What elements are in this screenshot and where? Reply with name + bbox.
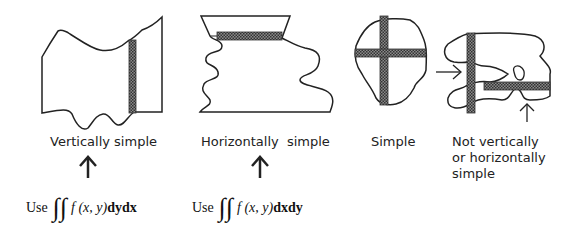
- vertical-strip: [380, 16, 388, 105]
- double-integral-icon: ∫∫: [219, 195, 233, 221]
- formula-dxdy: Use ∫∫ f (x, y) dxdy: [192, 195, 303, 221]
- region-outline: [200, 16, 333, 112]
- label-horizontally-simple: Horizontally simple: [201, 134, 330, 150]
- label-vertically-simple: Vertically simple: [50, 134, 157, 150]
- right-arrow-icon: [436, 65, 461, 79]
- up-arrow-icon: [252, 157, 268, 178]
- horizontally-simple-region: [200, 16, 333, 112]
- region-outline: [355, 19, 426, 105]
- horizontal-strip: [217, 32, 282, 40]
- label-simple: Simple: [371, 134, 415, 150]
- double-integral-icon: ∫∫: [53, 195, 67, 221]
- label-not-simple: Not vertically or horizontally simple: [452, 134, 546, 182]
- vertical-strip: [467, 33, 475, 113]
- vertical-strip: [129, 40, 136, 113]
- horizontal-strip: [355, 49, 426, 57]
- simple-region: [355, 16, 427, 105]
- formula-dydx: Use ∫∫ f (x, y) dydx: [26, 195, 137, 221]
- horizontal-strip: [484, 82, 550, 90]
- region-outline: [42, 17, 162, 129]
- not-simple-region: [436, 33, 550, 122]
- region-outline: [445, 33, 551, 108]
- up-arrow-icon: [520, 104, 534, 122]
- up-arrow-icon: [80, 157, 96, 178]
- vertically-simple-region: [42, 17, 162, 129]
